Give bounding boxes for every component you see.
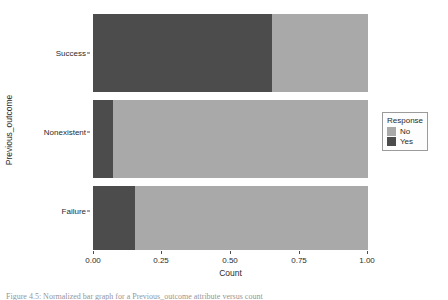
y-tick-label-success: Success xyxy=(10,49,86,58)
x-tick-mark-25 xyxy=(161,251,162,254)
x-tick-mark-100 xyxy=(367,251,368,254)
y-axis-tick-labels: Success Nonexistent Failure xyxy=(10,0,86,300)
y-tick-label-nonexistent: Nonexistent xyxy=(10,128,86,137)
x-tick-label-75: 0.75 xyxy=(291,256,307,265)
legend-title: Response xyxy=(387,116,423,125)
plot-panel xyxy=(93,14,368,250)
x-tick-label-100: 1.00 xyxy=(359,256,375,265)
bar-segment-nonexistent-yes[interactable] xyxy=(93,100,113,178)
legend-swatch-yes xyxy=(387,137,396,146)
legend-item-no[interactable]: No xyxy=(387,127,423,136)
x-tick-mark-0 xyxy=(93,251,94,254)
x-tick-label-25: 0.25 xyxy=(153,256,169,265)
figure-caption: Figure 4.5: Normalized bar graph for a P… xyxy=(6,291,442,300)
legend-swatch-no xyxy=(387,127,396,136)
bar-segment-success-yes[interactable] xyxy=(93,14,272,92)
bar-segment-nonexistent-no[interactable] xyxy=(113,100,368,178)
legend-label-yes: Yes xyxy=(400,137,413,146)
bar-row-nonexistent[interactable] xyxy=(93,100,368,178)
y-tick-mark-failure xyxy=(87,211,90,212)
x-axis-title: Count xyxy=(93,268,368,278)
bar-segment-failure-no[interactable] xyxy=(135,186,368,250)
bar-row-failure[interactable] xyxy=(93,186,368,250)
figure-container: Previous_outcome Success Nonexistent Fai… xyxy=(0,0,448,300)
y-tick-mark-nonexistent xyxy=(87,132,90,133)
bar-segment-success-no[interactable] xyxy=(272,14,368,92)
legend-label-no: No xyxy=(400,127,410,136)
x-tick-mark-75 xyxy=(299,251,300,254)
legend: Response No Yes xyxy=(382,112,428,151)
y-tick-label-failure: Failure xyxy=(10,207,86,216)
legend-item-yes[interactable]: Yes xyxy=(387,137,423,146)
x-tick-label-0: 0.00 xyxy=(85,256,101,265)
x-tick-mark-50 xyxy=(230,251,231,254)
bar-segment-failure-yes[interactable] xyxy=(93,186,135,250)
bar-row-success[interactable] xyxy=(93,14,368,92)
y-tick-mark-success xyxy=(87,53,90,54)
x-tick-label-50: 0.50 xyxy=(222,256,238,265)
